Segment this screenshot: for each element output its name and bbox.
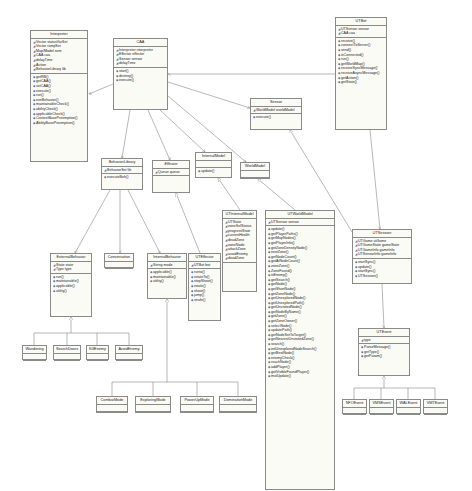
- attribute-label: UTState: [228, 220, 241, 224]
- attribute-label: State state: [56, 263, 73, 267]
- attributes-compartment: ◢Queue queue: [153, 169, 189, 177]
- operation-label: getZoneNode(): [271, 292, 295, 296]
- class-utsession[interactable]: UTSession◢UTGame utGame◢UTGameState game…: [352, 229, 412, 284]
- class-dominationmode[interactable]: DominationMode: [219, 396, 257, 413]
- attribute-label: delayTime: [36, 58, 52, 62]
- attribute: ◢deadZone: [225, 256, 254, 261]
- operations-compartment: [54, 361, 80, 367]
- attribute-label: attackZone: [228, 247, 246, 251]
- operation-label: isConnected(): [341, 53, 363, 57]
- attributes-compartment: [54, 354, 80, 361]
- class-name: NFOEvent: [343, 400, 366, 408]
- attribute: ◢delayTime: [116, 61, 165, 66]
- class-combatmode[interactable]: CombatMode: [96, 396, 128, 413]
- class-utevent[interactable]: UTEvent◢type◆ParseMessage()◆getType()◆ge…: [358, 328, 410, 376]
- attribute-label: Type type: [56, 267, 72, 271]
- attributes-compartment: ◢UTState◢zoneSelStatus◢progressState◢cur…: [223, 219, 256, 263]
- operations-compartment: [343, 415, 366, 421]
- class-name: InternalBehavior: [148, 254, 186, 262]
- class-name: KillEnemy: [87, 346, 108, 354]
- attribute-label: UTBot bot: [194, 263, 210, 267]
- operation-label: receiveAsyncMessage(): [341, 71, 379, 75]
- attributes-compartment: [23, 354, 46, 361]
- operation-label: maintainableCheck(): [36, 102, 69, 106]
- class-utworldmodel[interactable]: UTWorldModel◢UTSensor sensor◆update()◆ge…: [265, 210, 335, 490]
- attribute-label: Vector statusVarSet: [36, 40, 68, 44]
- operation-label: receive(): [341, 39, 355, 43]
- attribute: ◢BehaviorSet lib: [104, 168, 140, 173]
- attributes-compartment: [220, 405, 256, 412]
- attribute-label: Vector rampSet: [36, 44, 61, 48]
- operation: ◆getState(): [338, 80, 384, 85]
- operation-label: exeBehavior(): [36, 98, 58, 102]
- class-walevent[interactable]: WALEvent: [396, 399, 421, 414]
- class-name: ExploringMode: [136, 397, 170, 405]
- attribute-label: BehaviorLibrary lib: [36, 67, 66, 71]
- class-vmtevent[interactable]: VMTEvent: [423, 399, 448, 414]
- operations-compartment: [116, 361, 142, 367]
- class-sensor[interactable]: Sensor◢WorldModel worldModel◆execute(): [250, 98, 302, 130]
- class-behaviorlibrary[interactable]: BehaviorLibrary◢BehaviorSet lib◆executeB…: [101, 158, 143, 190]
- operation: ◆AbilityBasePreemption(): [33, 121, 85, 126]
- attribute: ◢UTBot bot: [191, 263, 218, 268]
- operation-label: initUnexploredNodeSearch(): [271, 347, 316, 351]
- attributes-compartment: ◢State state◢Type type: [51, 262, 91, 274]
- operations-compartment: [105, 269, 133, 275]
- operations-compartment: ◆start()◆destroy()◆execute(): [114, 68, 167, 84]
- class-name: Wandering: [23, 346, 46, 354]
- operation-label: ZoneFound(): [271, 269, 292, 273]
- class-utinternalmodel[interactable]: UTInternalModel◢UTState◢zoneSelStatus◢pr…: [222, 210, 257, 292]
- operation-label: getParam(): [364, 354, 382, 358]
- operation: ◆UTSession(): [355, 274, 409, 279]
- operation-label: getUnexploredPath(): [271, 301, 304, 305]
- class-nfoevent[interactable]: NFOEvent: [342, 399, 367, 414]
- class-wandering[interactable]: Wandering: [22, 345, 47, 360]
- attribute-label: currentHealth: [228, 233, 250, 237]
- class-killenemy[interactable]: KillEnemy: [86, 345, 109, 360]
- attribute-label: BehaviorSet lib: [107, 168, 131, 172]
- class-internalmodel[interactable]: InternalModel◆update(): [195, 152, 232, 178]
- class-conversation[interactable]: Conversation: [104, 253, 134, 268]
- operation-label: getShortNode(): [271, 287, 296, 291]
- class-utbot[interactable]: UTBot◢UTSensor sensor◢CAA caa◆receive()◆…: [335, 17, 387, 130]
- class-caa[interactable]: CAA◢Interpreter interpreter◢Effector eff…: [113, 38, 168, 110]
- operation-label: getSearch(): [271, 278, 290, 282]
- operation-label: update(): [271, 227, 284, 231]
- attribute: ◢Type type: [53, 267, 89, 272]
- attribute: ◢UTSensorInfo gameInfo: [355, 252, 409, 257]
- attributes-compartment: [370, 408, 393, 415]
- operation-label: maintainable(): [56, 279, 79, 283]
- class-name: UTInternalModel: [223, 211, 256, 219]
- operation-label: setCAA(): [36, 84, 51, 88]
- operation-label: rotate(): [194, 284, 206, 288]
- attribute-label: String mode: [153, 263, 172, 267]
- operation-label: getZone(): [271, 314, 287, 318]
- operations-compartment: ◆run()◆maintainable()◆applicable()◆utili…: [51, 274, 91, 294]
- operation: ◆utility(): [53, 289, 89, 294]
- class-vmsevent[interactable]: VMSEvent: [369, 399, 394, 414]
- operation-label: destroy(): [119, 74, 133, 78]
- operation-label: addPlayer(): [271, 365, 290, 369]
- class-worldmodel[interactable]: WorldModel: [240, 162, 270, 179]
- operation-label: nextZone(): [271, 250, 288, 254]
- class-searchdoors[interactable]: SearchDoors: [53, 345, 81, 360]
- attributes-compartment: ◢UTSensor sensor: [266, 219, 334, 227]
- operation-label: getVisibleFoundPlayer(): [271, 370, 309, 374]
- attribute-label: Sensor sensor: [119, 57, 142, 61]
- class-uteffector[interactable]: UTEffector◢UTBot bot◆runto()◆rotateTo()◆…: [188, 253, 221, 321]
- attributes-compartment: [241, 171, 269, 178]
- class-name: Effector: [153, 161, 189, 169]
- class-interpreter[interactable]: Interpreter◢Vector statusVarSet◢Vector r…: [30, 30, 88, 162]
- operation-label: getZoneOwner(): [271, 319, 297, 323]
- operations-compartment: [241, 178, 269, 184]
- operations-compartment: [424, 415, 447, 421]
- operation-label: execute(): [256, 115, 271, 119]
- operations-compartment: [223, 263, 256, 269]
- class-avoidenemy[interactable]: AvoidEnemy: [115, 345, 143, 360]
- class-externalbehavior[interactable]: ExternalBehavior◢State state◢Type type◆r…: [50, 253, 92, 317]
- class-internalbehavior[interactable]: InternalBehavior◢String mode◆applicable(…: [147, 253, 187, 299]
- class-exploringmode[interactable]: ExploringMode: [135, 396, 171, 413]
- operation: ◆executeBeh(): [104, 175, 140, 180]
- class-effector[interactable]: Effector◢Queue queue: [152, 160, 190, 193]
- class-powerupmode[interactable]: PowerUpMode: [180, 396, 214, 413]
